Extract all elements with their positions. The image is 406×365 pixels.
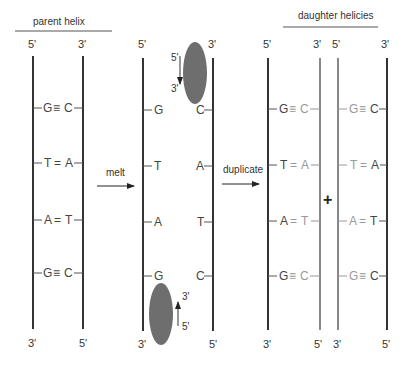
svg-text:A: A	[301, 158, 309, 172]
parent-right-3prime: 3'	[78, 38, 86, 50]
polymerase-bottom-3prime: 3'	[182, 291, 190, 302]
svg-text:C: C	[370, 102, 379, 116]
svg-text:=: =	[359, 214, 366, 228]
melted-base-g2: G	[154, 269, 163, 283]
svg-text:A: A	[280, 214, 288, 228]
svg-text:C: C	[300, 269, 309, 283]
polymerase-top-3prime: 3'	[171, 83, 179, 94]
melted-base-c2: C	[196, 269, 205, 283]
parent-pair-2: T = A	[33, 156, 83, 170]
parent-pair-1: G ≡ C	[33, 101, 83, 115]
svg-text:≡: ≡	[289, 269, 296, 283]
svg-text:T: T	[370, 214, 378, 228]
melted-right-5prime: 5'	[209, 338, 217, 350]
daughter2-left-5prime: 5'	[332, 38, 340, 50]
melt-label: melt	[106, 167, 125, 178]
duplicate-label: duplicate	[223, 164, 263, 175]
svg-text:T: T	[44, 156, 52, 170]
parent-helix-header: parent helix	[33, 16, 85, 27]
svg-text:=: =	[290, 214, 297, 228]
svg-text:A: A	[371, 158, 379, 172]
svg-text:=: =	[54, 156, 61, 170]
svg-text:C: C	[370, 269, 379, 283]
svg-text:G: G	[43, 101, 52, 115]
svg-text:C: C	[300, 102, 309, 116]
svg-text:=: =	[360, 158, 367, 172]
parent-right-5prime: 5'	[79, 337, 87, 349]
melted-base-a: A	[154, 215, 162, 229]
polymerase-top-icon	[183, 42, 207, 104]
parent-left-3prime: 3'	[28, 337, 36, 349]
melted-base-t2: T	[197, 215, 205, 229]
daughter2-right-3prime: 3'	[381, 38, 389, 50]
daughter2-left-3prime: 3'	[333, 338, 341, 350]
daughter1-right-5prime: 5'	[314, 338, 322, 350]
melted-base-a2: A	[196, 159, 204, 173]
daughter1-left-5prime: 5'	[263, 38, 271, 50]
svg-text:C: C	[64, 266, 73, 280]
parent-left-5prime: 5'	[28, 38, 36, 50]
svg-text:G: G	[43, 266, 52, 280]
melted-strands: 5' 3' 3' 5' G T A G C A T C 5' 3' 3' 5'	[138, 38, 217, 350]
daughter2-right-5prime: 5'	[382, 338, 390, 350]
daughter1-left-3prime: 3'	[263, 338, 271, 350]
plus-sign: +	[323, 191, 332, 208]
svg-text:≡: ≡	[359, 102, 366, 116]
svg-text:≡: ≡	[53, 101, 60, 115]
melted-right-3prime: 3'	[208, 38, 216, 50]
daughter-helicies-header: daughter helicies	[298, 10, 374, 21]
svg-text:G: G	[279, 102, 288, 116]
daughter-helix-1: 5' 3' 3' 5' G ≡ C T = A A = T G ≡ C	[263, 38, 322, 350]
svg-text:A: A	[65, 156, 73, 170]
svg-text:≡: ≡	[359, 269, 366, 283]
svg-text:T: T	[65, 213, 73, 227]
svg-text:=: =	[54, 213, 61, 227]
daughter-helix-2: 5' 3' 3' 5' G ≡ C T = A A = T G ≡ C	[332, 38, 390, 350]
svg-text:T: T	[301, 214, 309, 228]
svg-text:G: G	[349, 269, 358, 283]
svg-text:C: C	[64, 101, 73, 115]
melted-base-t: T	[154, 159, 162, 173]
melted-left-3prime: 3'	[138, 338, 146, 350]
svg-text:T: T	[280, 158, 288, 172]
melted-left-5prime: 5'	[138, 38, 146, 50]
polymerase-bottom-icon	[149, 283, 173, 345]
svg-text:G: G	[349, 102, 358, 116]
melted-base-g1: G	[154, 103, 163, 117]
dna-replication-diagram: parent helix daughter helicies 5' 3' 3' …	[0, 0, 406, 365]
polymerase-bottom-5prime: 5'	[182, 321, 190, 332]
melted-base-c1: C	[196, 103, 205, 117]
svg-text:≡: ≡	[53, 266, 60, 280]
parent-pair-3: A = T	[33, 213, 83, 227]
svg-text:≡: ≡	[289, 102, 296, 116]
svg-text:=: =	[290, 158, 297, 172]
daughter1-right-3prime: 3'	[313, 38, 321, 50]
svg-text:A: A	[349, 214, 357, 228]
svg-text:T: T	[350, 158, 358, 172]
polymerase-top-5prime: 5'	[171, 52, 179, 63]
svg-text:G: G	[279, 269, 288, 283]
svg-text:A: A	[44, 213, 52, 227]
parent-helix: 5' 3' 3' 5' G ≡ C T = A A = T	[28, 38, 87, 349]
parent-pair-4: G ≡ C	[33, 266, 83, 280]
